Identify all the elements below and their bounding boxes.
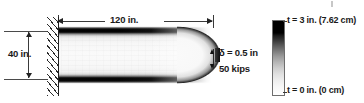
figure-canvas: 40 in. 120 in. δ = 0.5 in 50 kips t = 3 … — [0, 0, 364, 103]
deflection-label: δ = 0.5 in — [219, 48, 258, 58]
deflection-arrow-icon — [210, 49, 214, 54]
colorbar-max-label: t = 3 in. (7.62 cm) — [287, 16, 356, 25]
load-arrow-icon — [210, 64, 214, 69]
dimension-line-length-left — [58, 21, 105, 22]
colorbar-min-label: t = 0 in. (0 cm) — [287, 86, 344, 95]
dimension-line-length-right — [164, 21, 212, 22]
extension-line-bottom — [4, 79, 48, 80]
dimension-arrow-down-icon — [26, 73, 32, 78]
load-label: 50 kips — [219, 64, 250, 74]
beam-thickness-field — [59, 26, 221, 84]
colorbar-gradient — [272, 20, 285, 96]
dimension-arrow-up-icon — [26, 32, 32, 37]
length-dimension-label: 120 in. — [110, 15, 138, 25]
height-dimension-label: 40 in. — [8, 49, 31, 59]
dimension-arrow-right-icon — [207, 18, 213, 24]
scan-artifact — [331, 1, 333, 7]
